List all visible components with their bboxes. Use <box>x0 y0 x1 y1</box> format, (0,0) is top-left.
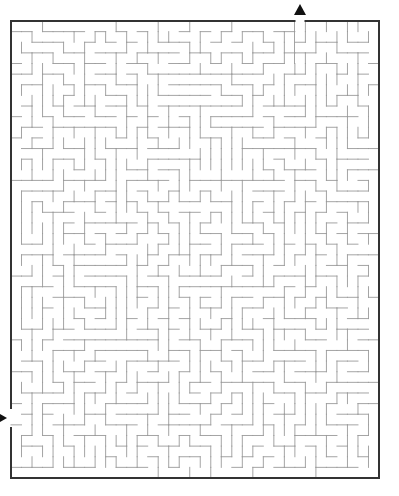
maze-walls <box>11 21 379 478</box>
entrance-arrow-icon <box>0 414 7 422</box>
maze-border <box>11 21 379 478</box>
maze <box>0 0 399 496</box>
exit-arrow-icon <box>294 4 306 15</box>
